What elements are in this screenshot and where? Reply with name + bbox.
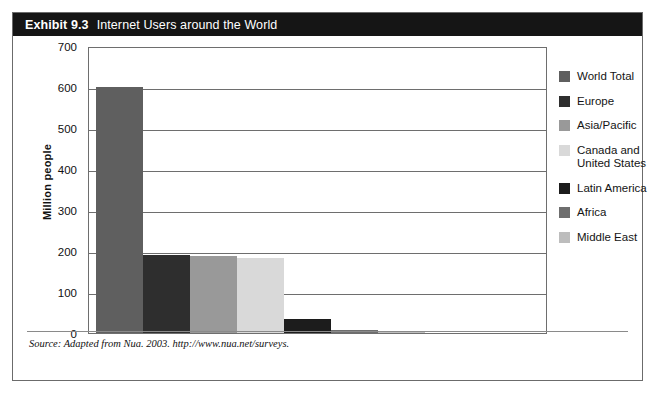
legend-item-label: Asia/Pacific <box>577 119 636 133</box>
source-divider <box>27 331 628 332</box>
y-tick-label-600: 600 <box>58 82 77 94</box>
y-tick-label-500: 500 <box>58 123 77 135</box>
gridline-400 <box>89 171 546 172</box>
legend-swatch-icon <box>559 183 570 194</box>
gridline-600 <box>89 89 546 90</box>
bar-world-total <box>96 87 143 333</box>
legend-swatch-icon <box>559 96 570 107</box>
legend-item: Middle East <box>559 231 647 245</box>
legend-item-label: Africa <box>577 206 606 220</box>
legend-item-label: World Total <box>577 70 634 84</box>
exhibit-title-bar: Exhibit 9.3 Internet Users around the Wo… <box>13 13 642 36</box>
legend-item: World Total <box>559 70 647 84</box>
legend-item-label: Middle East <box>577 231 637 245</box>
gridline-200 <box>89 253 546 254</box>
source-note: Source: Adapted from Nua. 2003. http://w… <box>29 338 289 349</box>
bar-canada-and-united-states <box>237 258 284 333</box>
legend-swatch-icon <box>559 232 570 243</box>
bar-europe <box>143 255 190 333</box>
y-tick-label-100: 100 <box>58 287 77 299</box>
y-tick-label-400: 400 <box>58 164 77 176</box>
chart-legend: World TotalEuropeAsia/PacificCanada and … <box>559 70 647 255</box>
gridline-500 <box>89 130 546 131</box>
legend-item: Africa <box>559 206 647 220</box>
legend-item: Canada and United States <box>559 144 647 171</box>
legend-item: Europe <box>559 95 647 109</box>
legend-swatch-icon <box>559 71 570 82</box>
gridline-300 <box>89 212 546 213</box>
bar-asia-pacific <box>190 256 237 333</box>
legend-swatch-icon <box>559 145 570 156</box>
y-tick-label-300: 300 <box>58 205 77 217</box>
legend-swatch-icon <box>559 207 570 218</box>
legend-item: Latin America <box>559 182 647 196</box>
exhibit-number: Exhibit 9.3 <box>25 18 89 32</box>
y-axis-tick-labels: 0100200300400500600700 <box>43 47 83 334</box>
legend-item-label: Europe <box>577 95 614 109</box>
legend-item: Asia/Pacific <box>559 119 647 133</box>
exhibit-title: Internet Users around the World <box>97 18 278 32</box>
exhibit-frame: Exhibit 9.3 Internet Users around the Wo… <box>12 12 643 381</box>
y-tick-label-200: 200 <box>58 246 77 258</box>
chart-area: Million people 0100200300400500600700 Wo… <box>13 36 642 380</box>
legend-swatch-icon <box>559 120 570 131</box>
legend-item-label: Canada and United States <box>577 144 646 171</box>
plot-area <box>88 47 547 334</box>
y-tick-label-700: 700 <box>58 41 77 53</box>
legend-item-label: Latin America <box>577 182 647 196</box>
